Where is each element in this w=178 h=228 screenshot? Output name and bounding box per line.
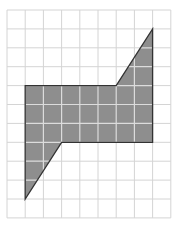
shaded-polygon	[25, 29, 152, 199]
grid-figure	[0, 0, 178, 228]
